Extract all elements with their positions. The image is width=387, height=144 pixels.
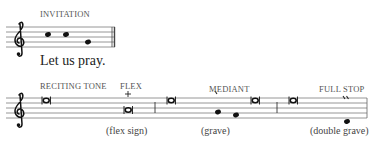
fullstop-note <box>343 118 350 124</box>
invitation-lyric: Let us pray. <box>40 53 106 69</box>
mediant-notes <box>214 109 239 118</box>
grave-annotation: (grave) <box>201 125 230 136</box>
staff-1-lines <box>6 27 115 47</box>
double-grave-mark-icon <box>343 96 349 99</box>
mediant-label: MEDIANT <box>209 84 250 94</box>
double-grave-annotation: (double grave) <box>310 125 369 136</box>
music-staves <box>0 0 387 144</box>
flex-sign-annotation: (flex sign) <box>106 125 147 136</box>
staff-2-lines <box>6 98 367 118</box>
reciting-tone-label: RECITING TONE <box>40 81 107 91</box>
flex-sign-icon <box>125 91 131 97</box>
flex-label: FLEX <box>120 81 142 91</box>
full-stop-label: FULL STOP <box>319 84 365 94</box>
invitation-notes <box>44 31 91 45</box>
